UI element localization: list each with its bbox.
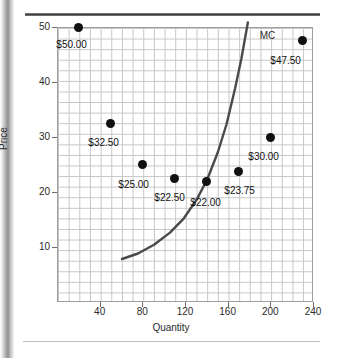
data-point [202, 177, 211, 186]
data-point-label: $25.00 [118, 179, 149, 190]
x-tick-label: 40 [80, 306, 120, 317]
data-point-label: $32.50 [88, 137, 119, 148]
top-divider-rule [25, 13, 320, 16]
y-tick-label: 50 [24, 22, 50, 32]
data-point [74, 23, 83, 32]
page-edge-gutter [0, 0, 14, 358]
figure-page: 1020304050 4080120160200240 Price Quanti… [0, 0, 342, 358]
plot-area [57, 27, 313, 302]
data-point [266, 133, 275, 142]
y-axis-title: Price [0, 127, 9, 150]
x-tick-label: 80 [122, 306, 162, 317]
x-tick-label: 240 [293, 306, 333, 317]
marginal-cost-curve [58, 28, 314, 303]
data-point [106, 119, 115, 128]
data-point-label: $23.75 [224, 185, 255, 196]
y-tick-label: 10 [24, 242, 50, 252]
data-point-label: $30.00 [248, 151, 279, 162]
data-point-label: $22.50 [154, 192, 185, 203]
mc-curve-label: MC [260, 30, 276, 41]
data-point-label: $50.00 [56, 39, 87, 50]
data-point [138, 160, 147, 169]
mc-curve-path [122, 23, 248, 260]
data-point-label: $22.00 [190, 197, 221, 208]
y-tick-label: 30 [24, 132, 50, 142]
bottom-divider-rule [23, 341, 320, 342]
x-axis-title: Quantity [0, 322, 342, 333]
data-point-label: $47.50 [270, 55, 301, 66]
plot-inner [58, 28, 312, 301]
x-tick-label: 200 [250, 306, 290, 317]
data-point [234, 167, 243, 176]
y-tick-label: 40 [24, 77, 50, 87]
x-tick-label: 120 [165, 306, 205, 317]
x-tick-label: 160 [208, 306, 248, 317]
data-point [170, 174, 179, 183]
y-tick-label: 20 [24, 187, 50, 197]
